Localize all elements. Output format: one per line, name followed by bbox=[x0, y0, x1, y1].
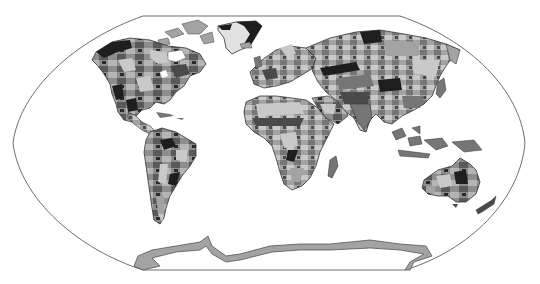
map-canvas bbox=[0, 0, 540, 284]
world-map bbox=[0, 0, 540, 284]
